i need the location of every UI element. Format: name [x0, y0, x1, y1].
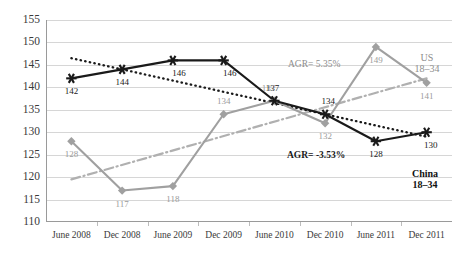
data-point-label: 132 — [318, 132, 332, 141]
data-point-label: 118 — [166, 195, 179, 204]
annotation-agr-us: AGR= 5.35% — [288, 60, 340, 70]
series-layer — [0, 0, 458, 258]
chart-container: 155150145140135130125120115110 June 2008… — [0, 0, 458, 258]
legend-label-us: US 18–34 — [415, 52, 440, 74]
data-point-label: 144 — [115, 78, 129, 87]
data-point-label: 128 — [369, 150, 383, 159]
series-markers-china — [66, 56, 432, 146]
data-point-label: 141 — [420, 92, 434, 101]
series-markers-us — [67, 43, 431, 195]
data-point-label: 137 — [262, 84, 276, 93]
data-point-label: 130 — [424, 141, 438, 150]
data-point-label: 146 — [172, 69, 186, 78]
data-point-label: 128 — [65, 150, 79, 159]
annotation-agr-china: AGR= -3.53% — [287, 151, 345, 161]
data-point-label: 134 — [321, 97, 335, 106]
data-point-label: 117 — [116, 200, 129, 209]
data-point-label: 134 — [217, 97, 231, 106]
legend-label-us-line2: 18–34 — [415, 63, 440, 74]
legend-label-china-line1: China — [412, 168, 438, 179]
data-point-label: 149 — [369, 56, 383, 65]
data-point-label: 146 — [223, 69, 237, 78]
legend-label-china-line2: 18–34 — [412, 179, 438, 190]
data-point-label: 142 — [65, 87, 79, 96]
legend-label-china: China 18–34 — [412, 168, 438, 190]
legend-label-us-line1: US — [415, 52, 440, 63]
trendline-us — [71, 78, 426, 179]
